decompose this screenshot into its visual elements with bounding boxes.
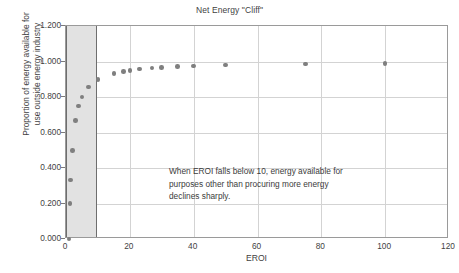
y-axis-title-line-2: use outside energy industry	[32, 23, 42, 125]
x-axis-title: EROI	[65, 253, 448, 263]
gridline-vertical	[258, 26, 259, 237]
data-point	[150, 66, 155, 71]
data-point	[137, 67, 142, 72]
data-point	[128, 68, 133, 73]
x-tick-label: 100	[364, 241, 404, 251]
gridline-horizontal	[66, 62, 447, 63]
gridline-horizontal	[66, 97, 447, 98]
data-point	[73, 118, 78, 123]
x-tick-label: 20	[109, 241, 149, 251]
data-point	[68, 201, 73, 206]
data-point	[121, 69, 126, 74]
x-tick-label: 0	[45, 241, 85, 251]
data-point	[96, 77, 101, 82]
chart-title: Net Energy "Cliff"	[0, 5, 459, 15]
data-point	[383, 61, 388, 66]
gridline-vertical	[385, 26, 386, 237]
data-point	[223, 63, 228, 68]
y-axis-title-wrapper: Proportion of energy available for use o…	[0, 0, 1, 1]
x-tick-label: 60	[237, 241, 277, 251]
x-tick-label: 120	[428, 241, 459, 251]
gridline-vertical	[130, 26, 131, 237]
data-point	[70, 148, 75, 153]
y-axis-title-line-1: Proportion of energy available for	[21, 12, 31, 135]
gridline-horizontal	[66, 133, 447, 134]
data-point	[112, 71, 117, 76]
data-point	[303, 62, 308, 67]
annotation-line-3: declines sharply.	[169, 190, 379, 203]
data-point	[175, 64, 180, 69]
data-point	[191, 64, 196, 69]
y-tick-label: 0.200	[7, 198, 65, 208]
y-tick-mark	[61, 238, 65, 239]
annotation-line-2: purposes other than procuring more energ…	[169, 178, 379, 191]
gridline-vertical	[194, 26, 195, 237]
chart-figure: Net Energy "Cliff" 0.0000.2000.4000.6000…	[0, 0, 459, 273]
annotation-line-1: When EROI falls below 10, energy availab…	[169, 165, 379, 178]
x-tick-label: 80	[300, 241, 340, 251]
x-tick-label: 40	[173, 241, 213, 251]
data-point	[159, 65, 164, 70]
plot-area: When EROI falls below 10, energy availab…	[65, 25, 448, 238]
y-axis-title: Proportion of energy available for use o…	[21, 0, 45, 169]
gridline-horizontal	[66, 204, 447, 205]
gridline-vertical	[321, 26, 322, 237]
data-point	[86, 85, 91, 90]
chart-annotation: When EROI falls below 10, energy availab…	[169, 165, 379, 203]
